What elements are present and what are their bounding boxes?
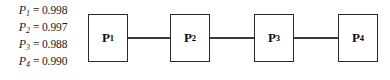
block-subscript: 4 bbox=[360, 33, 364, 43]
connector-line bbox=[127, 37, 171, 39]
equation-operator: = bbox=[30, 55, 42, 67]
equation-operator: = bbox=[30, 4, 42, 16]
equation-value: 0.997 bbox=[42, 21, 67, 33]
equation-operator: = bbox=[30, 21, 42, 33]
equation-row: P2=0.997 bbox=[0, 19, 86, 36]
equation-variable: P bbox=[19, 3, 26, 17]
equation-list: P1=0.998 P2=0.997 P3=0.988 P4=0.990 bbox=[0, 0, 86, 80]
equation-variable: P bbox=[19, 37, 26, 51]
block-subscript: 2 bbox=[192, 33, 196, 43]
block-p1: P1 bbox=[88, 14, 128, 62]
block-label: P bbox=[102, 30, 110, 46]
block-p4: P4 bbox=[338, 14, 378, 62]
block-p3: P3 bbox=[254, 14, 294, 62]
block-label: P bbox=[184, 30, 192, 46]
equation-row: P1=0.998 bbox=[0, 2, 86, 19]
block-label: P bbox=[352, 30, 360, 46]
block-p2: P2 bbox=[170, 14, 210, 62]
reliability-block-diagram-figure: P1=0.998 P2=0.997 P3=0.988 P4=0.990 P1 P… bbox=[0, 0, 390, 80]
equation-value: 0.998 bbox=[42, 4, 67, 16]
block-diagram: P1 P2 P3 P4 bbox=[86, 0, 390, 80]
equation-row: P4=0.990 bbox=[0, 53, 86, 70]
equation-value: 0.988 bbox=[42, 38, 67, 50]
equation-variable: P bbox=[19, 54, 26, 68]
equation-operator: = bbox=[30, 38, 42, 50]
equation-row: P3=0.988 bbox=[0, 36, 86, 53]
block-label: P bbox=[268, 30, 276, 46]
connector-line bbox=[293, 37, 339, 39]
equation-value: 0.990 bbox=[42, 55, 67, 67]
block-subscript: 3 bbox=[276, 33, 280, 43]
equation-variable: P bbox=[19, 20, 26, 34]
connector-line bbox=[209, 37, 255, 39]
block-subscript: 1 bbox=[110, 33, 114, 43]
